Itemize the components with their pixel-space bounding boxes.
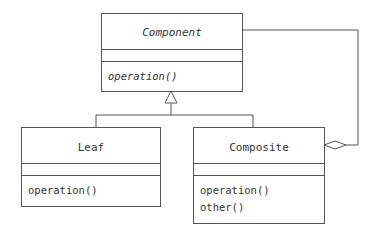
attributes-divider — [22, 163, 160, 164]
class-composite[interactable]: Composite operation() other() — [193, 127, 325, 224]
class-name: Composite — [194, 141, 324, 154]
operation: operation() — [200, 184, 270, 196]
class-name: Component — [102, 26, 242, 39]
operations-divider — [22, 175, 160, 176]
class-component[interactable]: Component operation() — [101, 13, 243, 92]
attributes-divider — [194, 163, 324, 164]
generalization-triangle — [165, 91, 177, 103]
class-name: Leaf — [22, 141, 160, 154]
class-leaf[interactable]: Leaf operation() — [21, 127, 161, 207]
operation: operation() — [28, 184, 98, 196]
attributes-divider — [102, 49, 242, 50]
operation: other() — [200, 201, 244, 213]
operations-divider — [102, 61, 242, 62]
operation: operation() — [108, 70, 178, 82]
aggregation-diamond — [324, 141, 346, 149]
operations-divider — [194, 175, 324, 176]
